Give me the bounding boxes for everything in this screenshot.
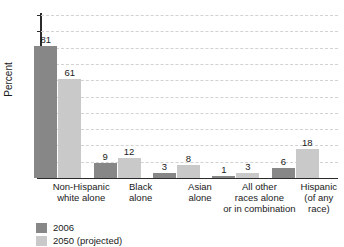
legend-label: 2006 [53, 222, 74, 233]
category-label-line: race) [271, 203, 344, 214]
bar-value-label: 3 [236, 161, 259, 172]
y-tick-mark [37, 178, 41, 179]
plot-area: 1009080706050403020100 81619123813618 [41, 15, 338, 178]
gridline [41, 80, 338, 81]
legend-swatch-icon [36, 236, 47, 246]
chart-title [0, 0, 344, 1]
bar-value-label: 3 [153, 161, 176, 172]
bar-value-label: 18 [296, 137, 319, 148]
bar-chart: Percent 1009080706050403020100 816191238… [0, 0, 344, 247]
bar-value-label: 8 [177, 153, 200, 164]
bar-value-label: 9 [94, 151, 117, 162]
legend-label: 2050 (projected) [53, 235, 122, 246]
bar-2006-3 [212, 176, 235, 178]
bar-2050-projected--2 [177, 165, 200, 178]
gridline [41, 129, 338, 130]
y-tick-mark [37, 31, 41, 32]
bar-2050-projected--0 [58, 79, 81, 178]
y-tick-mark [37, 15, 41, 16]
gridline [41, 145, 338, 146]
gridline [41, 113, 338, 114]
category-label-line: Hispanic [271, 181, 344, 192]
gridline [41, 48, 338, 49]
bar-2050-projected--4 [296, 149, 319, 178]
x-axis-category-label-4: Hispanic(of anyrace) [271, 181, 344, 215]
bar-value-label: 1 [212, 164, 235, 175]
bar-2006-0 [34, 46, 57, 178]
legend-item-0[interactable]: 2006 [36, 222, 122, 234]
legend: 20062050 (projected) [36, 222, 122, 247]
bar-2050-projected--3 [236, 173, 259, 178]
gridline [41, 64, 338, 65]
bar-2006-2 [153, 173, 176, 178]
bar-2050-projected--1 [118, 158, 141, 178]
category-label-line: (of any [271, 192, 344, 203]
bar-value-label: 61 [58, 67, 81, 78]
legend-item-1[interactable]: 2050 (projected) [36, 235, 122, 247]
bar-value-label: 6 [272, 156, 295, 167]
bar-value-label: 81 [34, 34, 57, 45]
legend-swatch-icon [36, 223, 47, 233]
gridline [41, 31, 338, 32]
bar-2006-1 [94, 163, 117, 178]
bar-value-label: 12 [118, 146, 141, 157]
gridline [41, 97, 338, 98]
gridline [41, 15, 338, 16]
bar-2006-4 [272, 168, 295, 178]
y-axis-label: Percent [3, 45, 14, 115]
